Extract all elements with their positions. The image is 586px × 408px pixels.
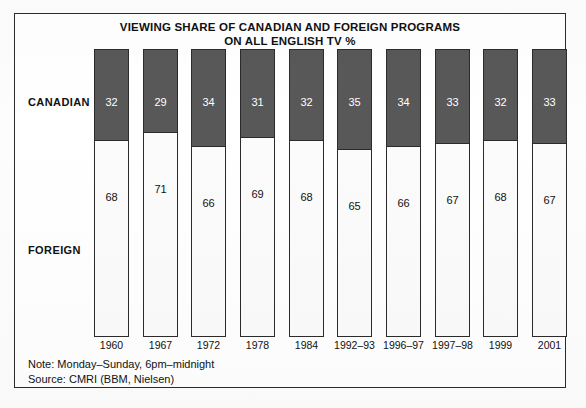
- footnote-source: Source: CMRI (BBM, Nielsen): [28, 372, 214, 387]
- bar-value-canadian: 35: [338, 96, 371, 108]
- bar-column: 3268: [483, 49, 518, 337]
- bar-segment-canadian: 33: [532, 49, 567, 144]
- bar-value-foreign: 66: [192, 197, 225, 209]
- x-axis-tick-label: 2001: [520, 339, 580, 351]
- bar-value-foreign: 65: [338, 200, 371, 212]
- plot-area: 3268297134663169326835653466336732683367: [94, 49, 567, 337]
- series-label-canadian: CANADIAN: [28, 96, 90, 108]
- bar-segment-foreign: 69: [240, 138, 275, 337]
- bar-segment-foreign: 67: [532, 144, 567, 337]
- x-axis-labels: 196019671972197819841992–931996–971997–9…: [94, 339, 567, 359]
- bar-column: 3367: [532, 49, 567, 337]
- bar-segment-canadian: 32: [94, 49, 129, 141]
- bar-value-foreign: 68: [95, 191, 128, 203]
- bar-value-canadian: 29: [144, 96, 177, 108]
- bar-segment-canadian: 35: [337, 49, 372, 150]
- bar-segment-canadian: 29: [143, 49, 178, 133]
- bar-column: 3169: [240, 49, 275, 337]
- bar-value-foreign: 68: [290, 191, 323, 203]
- bar-segment-foreign: 71: [143, 133, 178, 337]
- bar-value-foreign: 68: [484, 191, 517, 203]
- bar-column: 3268: [289, 49, 324, 337]
- chart-title-line-1: VIEWING SHARE OF CANADIAN AND FOREIGN PR…: [120, 21, 460, 33]
- bar-segment-canadian: 34: [191, 49, 226, 147]
- bar-segment-canadian: 31: [240, 49, 275, 138]
- bar-value-canadian: 34: [192, 96, 225, 108]
- bar-value-foreign: 69: [241, 188, 274, 200]
- bar-segment-foreign: 68: [289, 141, 324, 337]
- chart-frame: VIEWING SHARE OF CANADIAN AND FOREIGN PR…: [14, 13, 566, 388]
- bar-column: 3565: [337, 49, 372, 337]
- bar-segment-foreign: 67: [435, 144, 470, 337]
- bar-segment-canadian: 32: [483, 49, 518, 141]
- bar-column: 2971: [143, 49, 178, 337]
- bar-value-canadian: 31: [241, 96, 274, 108]
- bar-value-foreign: 71: [144, 183, 177, 195]
- series-label-foreign: FOREIGN: [28, 244, 81, 256]
- bar-value-foreign: 67: [533, 194, 566, 206]
- bar-segment-foreign: 65: [337, 150, 372, 337]
- bar-segment-foreign: 66: [191, 147, 226, 337]
- bar-column: 3367: [435, 49, 470, 337]
- bar-column: 3268: [94, 49, 129, 337]
- bar-segment-foreign: 68: [483, 141, 518, 337]
- footnotes: Note: Monday–Sunday, 6pm–midnight Source…: [28, 357, 214, 387]
- bar-value-canadian: 33: [533, 96, 566, 108]
- footnote-note: Note: Monday–Sunday, 6pm–midnight: [28, 357, 214, 372]
- chart-title-line-2: ON ALL ENGLISH TV %: [15, 34, 565, 48]
- bar-value-canadian: 33: [436, 96, 469, 108]
- bar-segment-foreign: 68: [94, 141, 129, 337]
- bar-column: 3466: [191, 49, 226, 337]
- bar-value-canadian: 32: [95, 96, 128, 108]
- bar-segment-canadian: 34: [386, 49, 421, 147]
- bar-value-canadian: 32: [484, 96, 517, 108]
- bar-segment-canadian: 33: [435, 49, 470, 144]
- bar-value-foreign: 67: [436, 194, 469, 206]
- bar-value-foreign: 66: [387, 197, 420, 209]
- bar-segment-canadian: 32: [289, 49, 324, 141]
- bar-value-canadian: 34: [387, 96, 420, 108]
- chart-title: VIEWING SHARE OF CANADIAN AND FOREIGN PR…: [15, 20, 565, 48]
- bar-segment-foreign: 66: [386, 147, 421, 337]
- bar-value-canadian: 32: [290, 96, 323, 108]
- bar-column: 3466: [386, 49, 421, 337]
